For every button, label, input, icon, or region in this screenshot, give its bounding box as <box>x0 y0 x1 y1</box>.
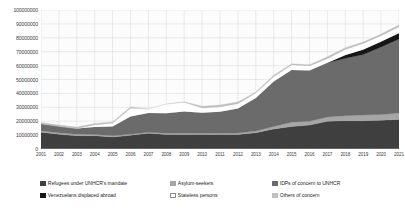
legend-item-label: Refugees under UNHCR's mandate <box>48 180 127 187</box>
x-axis-tick-label: 2008 <box>161 151 171 159</box>
legend-item-label: Venezuelans displaced abroad <box>48 192 116 199</box>
y-axis-tick-label: 60000000 <box>16 63 38 69</box>
legend-swatch-icon <box>272 181 278 187</box>
legend-row: Refugees under UNHCR's mandateAsylum-see… <box>40 178 400 189</box>
y-axis-tick-label: 30000000 <box>16 104 38 110</box>
legend-item-label: Others of concern <box>280 192 320 199</box>
legend-row: Venezuelans displaced abroadStateless pe… <box>40 190 400 201</box>
y-axis-tick-label: 40000000 <box>16 90 38 96</box>
y-axis-tick-label: 100000000 <box>13 7 38 13</box>
legend-item-label: Asylum-seekers <box>178 180 214 187</box>
legend-swatch-icon <box>170 181 176 187</box>
x-axis-tick-label: 2016 <box>305 151 315 159</box>
x-axis-tick-label: 2011 <box>215 151 224 159</box>
x-axis-tick-label: 2004 <box>90 151 100 159</box>
y-axis-tick-label: 70000000 <box>16 49 38 55</box>
legend-item[interactable]: Venezuelans displaced abroad <box>40 190 116 201</box>
x-axis-tick-label: 2017 <box>322 151 332 159</box>
y-axis-tick-label: 80000000 <box>16 35 38 41</box>
x-axis-tick-label: 2015 <box>287 151 297 159</box>
stacked-area-chart: 0100000002000000030000000400000005000000… <box>0 0 405 210</box>
x-axis-tick-label: 2013 <box>251 151 261 159</box>
x-axis-tick-label: 2002 <box>54 151 64 159</box>
legend-item-label: IDPs of concern to UNHCR <box>280 180 341 187</box>
legend-item[interactable]: IDPs of concern to UNHCR <box>272 178 340 189</box>
y-axis-tick-label: 10000000 <box>16 132 38 138</box>
plot-area <box>41 10 399 149</box>
legend-swatch-icon <box>170 193 176 199</box>
legend-swatch-icon <box>40 181 46 187</box>
x-axis-tick-label: 2020 <box>376 151 386 159</box>
chart-legend: Refugees under UNHCR's mandateAsylum-see… <box>40 178 400 204</box>
x-axis-tick-label: 2006 <box>126 151 136 159</box>
legend-item-label: Stateless persons <box>178 192 218 199</box>
legend-item[interactable]: Refugees under UNHCR's mandate <box>40 178 127 189</box>
x-axis-tick-label: 2019 <box>358 151 368 159</box>
legend-swatch-icon <box>272 193 278 199</box>
legend-item[interactable]: Stateless persons <box>170 190 217 201</box>
x-axis-tick-label: 2007 <box>143 151 153 159</box>
legend-item[interactable]: Asylum-seekers <box>170 178 213 189</box>
x-axis-tick-label: 2014 <box>269 151 279 159</box>
x-axis-tick-label: 2021 <box>394 151 404 159</box>
x-axis-tick-label: 2009 <box>179 151 189 159</box>
x-axis-tick-label: 2003 <box>72 151 82 159</box>
x-axis-tick-label: 2010 <box>197 151 207 159</box>
y-axis-tick-label: 20000000 <box>16 118 38 124</box>
x-axis-tick-label: 2018 <box>340 151 350 159</box>
legend-swatch-icon <box>40 193 46 199</box>
y-axis-tick-label: 90000000 <box>16 21 38 27</box>
y-axis-tick-label: 50000000 <box>16 77 38 83</box>
legend-item[interactable]: Others of concern <box>272 190 319 201</box>
x-axis-tick-label: 2005 <box>108 151 118 159</box>
x-axis-tick-label: 2012 <box>233 151 243 159</box>
plot-svg <box>41 10 399 149</box>
x-axis-tick-label: 2001 <box>36 151 46 159</box>
x-axis: 2001200220032004200520062007200820092010… <box>41 151 399 163</box>
y-axis: 0100000002000000030000000400000005000000… <box>0 10 38 149</box>
